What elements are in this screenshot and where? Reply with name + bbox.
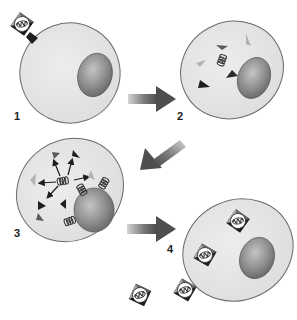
cell-step-4 [125, 181, 297, 319]
step-label-2: 2 [177, 110, 183, 122]
step-label-4: 4 [167, 243, 173, 255]
arrow-step2-to-3 [140, 140, 186, 170]
arrow-step1-to-2 [128, 86, 176, 112]
cell-step-1 [6, 9, 134, 137]
arrow-step3-to-4 [127, 216, 176, 242]
viral-cycle-diagram [0, 0, 297, 320]
released-virus-icon [125, 280, 156, 311]
step-label-1: 1 [14, 110, 20, 122]
cell-step-3 [0, 117, 144, 262]
cell-step-2 [165, 5, 297, 136]
step-label-3: 3 [14, 227, 20, 239]
